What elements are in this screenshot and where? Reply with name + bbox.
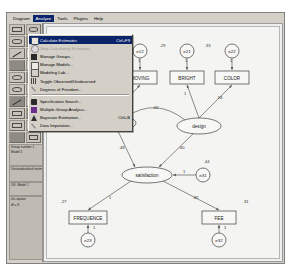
parameter-estimate: 1 xyxy=(183,169,186,174)
title-tool[interactable] xyxy=(9,60,25,71)
menu-item-toggle-observed-unobserved[interactable]: Toggle Observed/Unobserved xyxy=(29,77,132,85)
menu-plugins[interactable]: Plugins xyxy=(70,15,90,22)
manage-models-icon xyxy=(30,61,38,68)
menu-item-accel: Ctrl+B xyxy=(118,115,130,120)
latent-variable-label: design xyxy=(192,124,206,129)
error-term-label: e32 xyxy=(215,238,223,243)
calculate-tool[interactable] xyxy=(9,132,25,143)
copy-clipboard-tool[interactable] xyxy=(26,132,42,143)
menu-item-label: Manage Groups... xyxy=(40,54,130,59)
observed-variable-label: FREQUENCE xyxy=(74,216,103,221)
resize-tool[interactable] xyxy=(9,108,25,119)
parameter-estimate: .60 xyxy=(179,145,185,150)
menu-item-manage-groups[interactable]: Manage Groups... xyxy=(29,52,132,60)
observed-variable-label: MOVING xyxy=(131,76,150,81)
path-arrow xyxy=(187,85,199,118)
parameter-estimate: 1 xyxy=(138,58,141,63)
error-term-e31[interactable]: e31 xyxy=(196,168,210,182)
menu-item-data-imputation[interactable]: Data Imputation... xyxy=(29,122,132,130)
parameter-estimate: 1 xyxy=(224,225,227,230)
path-arrow xyxy=(163,181,219,210)
group-panel[interactable]: Group number 1 Model 1 xyxy=(9,144,43,166)
binoculars-icon xyxy=(30,98,38,105)
menu-item-label: Stop Calculating Estimates xyxy=(40,46,130,51)
flask-icon xyxy=(30,69,38,76)
menu-item-label: Data Imputation... xyxy=(40,123,130,128)
move-tool[interactable] xyxy=(9,96,25,107)
menu-bar: Diagram Analyze Tools Plugins Help xyxy=(8,14,283,23)
menu-item-stop-calculating-estimates[interactable]: Stop Calculating Estimates xyxy=(29,44,132,52)
output-panel[interactable]: chi-square df = 8 xyxy=(9,196,43,260)
view-panel-line1: OK: Model 1 xyxy=(10,183,42,188)
error-term-e23[interactable]: e23 xyxy=(81,233,95,247)
parameter-estimate: 1 xyxy=(185,58,188,63)
menu-analyze[interactable]: Analyze xyxy=(33,15,55,22)
parameter-estimate: .27 xyxy=(61,199,67,204)
menu-item-specification-search[interactable]: Specification Search... xyxy=(29,97,132,105)
observed-variable-fee[interactable]: FEE xyxy=(202,211,236,224)
menu-item-label: Toggle Observed/Unobserved xyxy=(40,79,130,84)
data-files-tool[interactable] xyxy=(9,120,25,131)
error-term-label: e31 xyxy=(199,173,207,178)
menu-item-bayesian-estimation[interactable]: Bayesian Estimation... Ctrl+B xyxy=(29,114,132,122)
error-term-e21[interactable]: e21 xyxy=(180,44,194,58)
path-arrow xyxy=(87,225,90,233)
manage-groups-icon xyxy=(30,53,38,60)
latent-variable-tool[interactable] xyxy=(9,36,25,47)
parameter-estimate: 1 xyxy=(184,91,187,96)
latent-variable-label: satisfaction xyxy=(136,173,159,178)
analyze-dropdown-menu[interactable]: Calculate Estimates Ctrl+F9 Stop Calcula… xyxy=(28,34,133,132)
error-term-e32[interactable]: e32 xyxy=(212,233,226,247)
multi-group-icon xyxy=(30,106,38,113)
degrees-icon xyxy=(30,86,38,93)
menu-item-label: Modeling Lab... xyxy=(40,70,130,75)
error-term-label: e12 xyxy=(136,49,144,54)
observed-variable-frequence[interactable]: FREQUENCE xyxy=(69,211,107,224)
stop-icon xyxy=(30,45,38,52)
error-term-e22[interactable]: e22 xyxy=(225,44,239,58)
view-panel[interactable]: OK: Model 1 xyxy=(9,182,43,196)
menu-item-manage-models[interactable]: Manage Models... xyxy=(29,61,132,69)
parameter-estimate: .44 xyxy=(204,159,210,164)
parameter-estimate: .33 xyxy=(205,43,211,48)
observed-variable-label: BRIGHT xyxy=(178,76,196,81)
menu-tools[interactable]: Tools xyxy=(54,15,70,22)
menu-diagram[interactable]: Diagram xyxy=(10,15,33,22)
menu-item-label: Multiple-Group Analysis... xyxy=(40,107,130,112)
error-term-label: e22 xyxy=(228,49,236,54)
parameter-estimate: 1 xyxy=(93,225,96,230)
menu-item-multiple-group-analysis[interactable]: Multiple-Group Analysis... xyxy=(29,106,132,114)
parameter-estimate: .48 xyxy=(119,145,125,150)
error-term-e12[interactable]: e12 xyxy=(133,44,147,58)
amos-graphics-window: Diagram Analyze Tools Plugins Help xyxy=(6,12,285,264)
observed-variable-bright[interactable]: BRIGHT xyxy=(170,71,204,84)
group-panel-line2: Model 1 xyxy=(10,150,42,155)
parameter-estimate: .29 xyxy=(160,43,166,48)
rectangle-tool[interactable] xyxy=(9,24,25,35)
error-term-label: e23 xyxy=(84,238,92,243)
toggle-icon xyxy=(30,78,38,85)
model-panel-line1: Unstandardized estimates xyxy=(10,167,42,172)
menu-item-calculate-estimates[interactable]: Calculate Estimates Ctrl+F9 xyxy=(29,36,132,44)
menu-item-modeling-lab[interactable]: Modeling Lab... xyxy=(29,69,132,77)
covariance-tool[interactable] xyxy=(9,48,25,59)
parameter-estimate: .94 xyxy=(217,95,223,100)
model-panel[interactable]: Unstandardized estimates xyxy=(9,166,43,182)
parameter-estimate: .82 xyxy=(193,195,199,200)
imputation-icon xyxy=(30,122,38,129)
path-arrow xyxy=(199,85,232,118)
menu-help[interactable]: Help xyxy=(91,15,106,22)
latent-variable-design[interactable]: design xyxy=(177,118,221,134)
latent-variable-satisfaction[interactable]: satisfaction xyxy=(122,167,172,183)
deselect-tool[interactable] xyxy=(9,84,25,95)
select-one-tool[interactable] xyxy=(9,72,25,83)
menu-item-label: Bayesian Estimation... xyxy=(40,115,114,120)
abacus-icon xyxy=(30,37,38,44)
parameter-estimate: .62 xyxy=(153,105,159,110)
parameter-estimate: 1 xyxy=(230,58,233,63)
path-arrow xyxy=(218,225,221,233)
output-panel-line2: df = 8 xyxy=(10,203,42,209)
menu-item-degrees-of-freedom[interactable]: Degrees of Freedom... xyxy=(29,85,132,93)
menu-item-label: Calculate Estimates xyxy=(40,38,112,43)
observed-variable-color[interactable]: COLOR xyxy=(215,71,249,84)
